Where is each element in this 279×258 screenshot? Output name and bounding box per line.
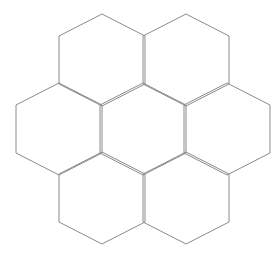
hexagon-figure-root (0, 0, 279, 258)
hexagon-tiling-canvas (0, 0, 279, 258)
canvas-background (0, 0, 279, 258)
